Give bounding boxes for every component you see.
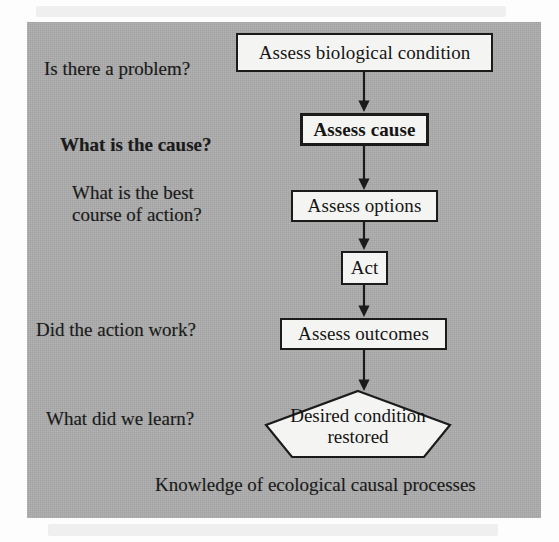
arrow-act-to-outcomes	[353, 285, 375, 318]
node-assess-outcomes[interactable]: Assess outcomes	[280, 318, 447, 350]
question-label-is-there-a-problem: Is there a problem?	[44, 58, 190, 80]
question-label-what-did-we-learn: What did we learn?	[46, 408, 194, 430]
scanned-page-background: Is there a problem? What is the cause? W…	[0, 0, 559, 542]
node-assess-options[interactable]: Assess options	[291, 190, 438, 222]
scan-artifact-bottom	[48, 524, 498, 536]
arrow-outcomes-to-desired-condition	[353, 350, 375, 392]
arrow-cause-to-options	[353, 146, 375, 191]
question-label-did-the-action-work: Did the action work?	[36, 319, 196, 341]
arrow-options-to-act	[353, 222, 375, 251]
question-label-best-course-of-action: What is the best course of action?	[72, 182, 202, 226]
question-label-what-is-the-cause: What is the cause?	[60, 134, 211, 156]
arrow-condition-to-cause	[353, 72, 375, 113]
figure-panel: Is there a problem? What is the cause? W…	[27, 22, 541, 518]
node-desired-condition-restored[interactable]: Desired condition restored	[264, 389, 452, 459]
scan-artifact-top	[36, 6, 506, 17]
figure-caption: Knowledge of ecological causal processes	[155, 474, 476, 496]
node-act[interactable]: Act	[341, 251, 388, 285]
node-assess-biological-condition[interactable]: Assess biological condition	[236, 33, 493, 72]
node-assess-cause[interactable]: Assess cause	[300, 113, 429, 146]
